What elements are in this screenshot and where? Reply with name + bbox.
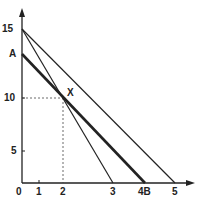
intersection-label-X: X [67,87,74,98]
line-15-3 [22,29,113,183]
y-label-10: 10 [4,92,16,103]
x-label-4B: 4B [138,186,151,197]
origin-label-0: 0 [16,186,22,197]
line-A-B [22,54,145,183]
budget-line-diagram: 15 A 10 5 0 1 2 3 4B 5 X [0,0,208,207]
x-label-1: 1 [36,186,42,197]
x-axis-arrow-icon [186,180,195,186]
x-label-2: 2 [60,186,66,197]
x-label-3: 3 [110,186,116,197]
y-label-A: A [9,48,16,59]
x-label-5: 5 [172,186,178,197]
y-label-15: 15 [2,23,14,34]
line-15-5 [22,29,175,183]
y-label-5: 5 [11,145,17,156]
y-axis-arrow-icon [19,8,25,17]
